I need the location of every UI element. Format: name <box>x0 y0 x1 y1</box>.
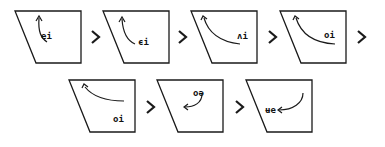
vowel-label: oi <box>113 115 124 124</box>
vowel-panel-3: ʌi <box>190 10 260 65</box>
vowel-label: oi <box>324 31 335 40</box>
vowel-panel-5: oi <box>68 79 138 134</box>
vowel-label: ʉe <box>265 106 276 115</box>
vowel-panel-2: ϵi <box>102 10 172 65</box>
chevron-right-icon <box>268 29 278 48</box>
vowel-label: ϵi <box>138 38 149 47</box>
vowel-label: oə <box>193 89 204 98</box>
chevron-right-icon <box>357 29 367 48</box>
trapezoid-shape <box>190 10 260 65</box>
trapezoid-shape <box>245 79 315 134</box>
vowel-label: ei <box>41 32 52 41</box>
vowel-label: ʌi <box>237 32 248 41</box>
trapezoid-shape <box>102 10 172 65</box>
trapezoid-shape <box>68 79 138 134</box>
vowel-panel-1: ei <box>14 10 84 65</box>
chevron-right-icon <box>146 99 156 118</box>
chevron-right-icon <box>91 29 101 48</box>
trapezoid-shape <box>279 10 349 65</box>
vowel-panel-6: oə <box>156 79 226 134</box>
vowel-panel-4: oi <box>279 10 349 65</box>
vowel-panel-7: ʉe <box>245 79 315 134</box>
chevron-right-icon <box>235 99 245 118</box>
chevron-right-icon <box>178 29 188 48</box>
trapezoid-shape <box>156 79 226 134</box>
